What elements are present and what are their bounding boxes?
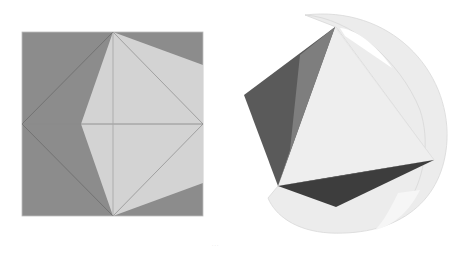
geometry-figure [0, 0, 464, 255]
figure-caption: · · · [212, 243, 218, 248]
octahedron-sphere-diagram [244, 14, 447, 233]
octahedron-square-diagram [22, 32, 203, 216]
